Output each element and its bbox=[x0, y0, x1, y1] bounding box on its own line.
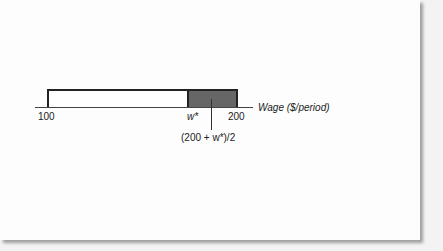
midpoint-pointer bbox=[211, 99, 212, 130]
axis-label: Wage ($/period) bbox=[258, 102, 330, 113]
page: 100 w* 200 (200 + w*)/2 Wage ($/period) bbox=[0, 0, 420, 240]
midpoint-label: (200 + w*)/2 bbox=[181, 132, 235, 143]
tick-label-wstar: w* bbox=[187, 111, 198, 122]
tick-label-200: 200 bbox=[228, 111, 245, 122]
wage-axis bbox=[35, 107, 253, 108]
region-wstar-to-200 bbox=[187, 89, 238, 108]
region-100-to-wstar bbox=[47, 89, 187, 108]
tick-label-100: 100 bbox=[38, 111, 55, 122]
